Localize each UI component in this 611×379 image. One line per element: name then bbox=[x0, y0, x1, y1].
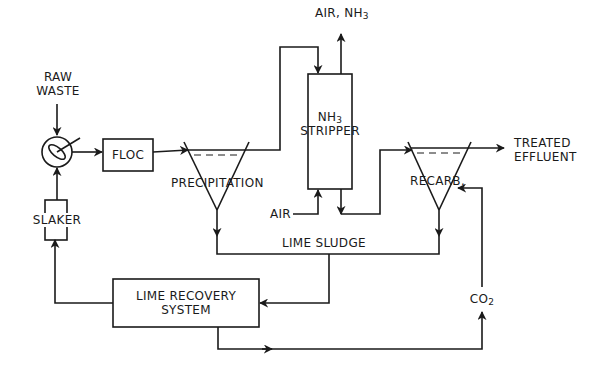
slaker-label: SLAKER bbox=[26, 213, 88, 227]
air-nh3-subscript: 3 bbox=[363, 11, 369, 21]
lime-sludge-label: LIME SLUDGE bbox=[282, 236, 366, 250]
raw-waste-line2: WASTE bbox=[36, 84, 80, 98]
stripper-line1: NH3 bbox=[296, 110, 364, 124]
air-in-arrow bbox=[293, 190, 318, 214]
raw-waste-label: RAW WASTE bbox=[36, 70, 80, 98]
co2-to-recarb-flow bbox=[458, 188, 482, 287]
co2-subscript: 2 bbox=[488, 297, 494, 307]
stripper-line2: STRIPPER bbox=[296, 124, 364, 138]
air-nh3-out-label: AIR, NH3 bbox=[315, 6, 369, 20]
air-in-label: AIR bbox=[270, 207, 291, 221]
treated-effluent-line1: TREATED bbox=[514, 136, 577, 150]
recovery-to-co2-flow bbox=[218, 312, 482, 349]
co2-label: CO2 bbox=[465, 292, 499, 306]
precipitation-label: PRECIPITATION bbox=[171, 176, 264, 190]
treated-effluent-label: TREATED EFFLUENT bbox=[514, 136, 577, 164]
floc-label: FLOC bbox=[103, 148, 153, 162]
recovery-to-slaker-flow bbox=[55, 240, 113, 303]
floc-to-precipitation-arrow bbox=[153, 150, 188, 152]
stripper-label: NH3 STRIPPER bbox=[296, 110, 364, 138]
sludge-to-recovery-flow bbox=[260, 254, 329, 303]
lime-recovery-line2: SYSTEM bbox=[113, 303, 259, 317]
flow-diagram-canvas bbox=[0, 0, 611, 379]
raw-waste-line1: RAW bbox=[36, 70, 80, 84]
recarb-label: RECARB. bbox=[410, 174, 465, 188]
co2-text: CO bbox=[470, 292, 488, 306]
stripper-nh-text: NH bbox=[318, 110, 337, 124]
lime-recovery-line1: LIME RECOVERY bbox=[113, 289, 259, 303]
air-nh3-text: AIR, NH bbox=[315, 6, 363, 20]
treated-effluent-line2: EFFLUENT bbox=[514, 150, 577, 164]
lime-recovery-label: LIME RECOVERY SYSTEM bbox=[113, 289, 259, 317]
mixer-shaft-icon bbox=[57, 138, 80, 152]
